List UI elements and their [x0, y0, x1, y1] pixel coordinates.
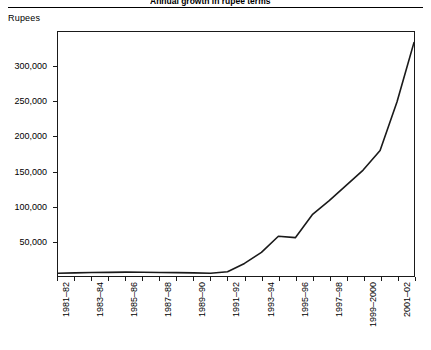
x-tick-mark [142, 277, 143, 281]
x-tick-mark [279, 277, 280, 281]
x-tick-label: 1993–94 [266, 282, 276, 317]
x-tick-label: 1987–88 [163, 282, 173, 317]
x-tick-label: 1983–84 [95, 282, 105, 317]
x-tick-label: 1999–2000 [368, 282, 378, 327]
x-tick-mark [347, 277, 348, 281]
x-tick-mark [364, 277, 365, 281]
x-tick-mark [313, 277, 314, 281]
x-tick-label: 1985–86 [129, 282, 139, 317]
x-tick-mark [125, 277, 126, 281]
x-tick-mark [381, 277, 382, 281]
x-tick-label: 1995–96 [300, 282, 310, 317]
x-tick-label: 2001–02 [402, 282, 412, 317]
x-tick-mark [159, 277, 160, 281]
x-tick-mark [296, 277, 297, 281]
x-tick-mark [398, 277, 399, 281]
x-tick-mark [330, 277, 331, 281]
x-tick-label: 1989–90 [197, 282, 207, 317]
x-tick-mark [74, 277, 75, 281]
x-tick-label: 1997–98 [334, 282, 344, 317]
x-tick-mark [262, 277, 263, 281]
x-tick-label: 1991–92 [231, 282, 241, 317]
x-tick-mark [227, 277, 228, 281]
x-tick-mark [57, 277, 58, 281]
x-tick-mark [415, 277, 416, 281]
x-tick-mark [176, 277, 177, 281]
x-axis: 1981–821983–841985–861987–881989–901991–… [0, 0, 431, 350]
x-tick-mark [108, 277, 109, 281]
x-tick-label: 1981–82 [61, 282, 71, 317]
chart-figure: Annual growth in rupee terms Rupees 50,0… [0, 0, 431, 350]
x-tick-mark [193, 277, 194, 281]
x-tick-mark [91, 277, 92, 281]
x-tick-mark [210, 277, 211, 281]
x-tick-mark [245, 277, 246, 281]
